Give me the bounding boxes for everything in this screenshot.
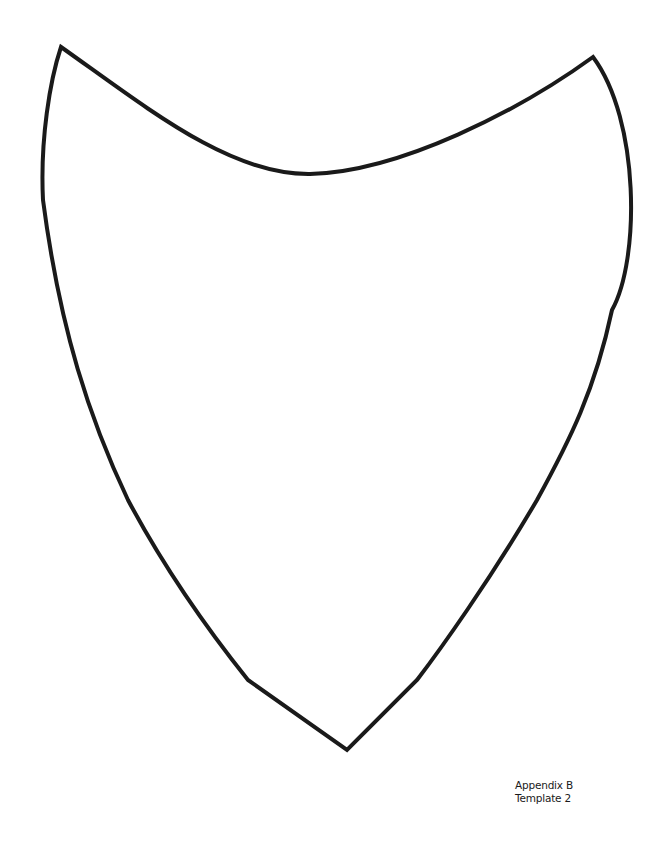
caption-template-label: Template 2 <box>515 792 573 805</box>
caption-appendix-label: Appendix B <box>515 779 573 792</box>
appendix-caption: Appendix B Template 2 <box>515 779 573 805</box>
shield-outline-icon <box>0 0 666 841</box>
template-page: Appendix B Template 2 <box>0 0 666 841</box>
